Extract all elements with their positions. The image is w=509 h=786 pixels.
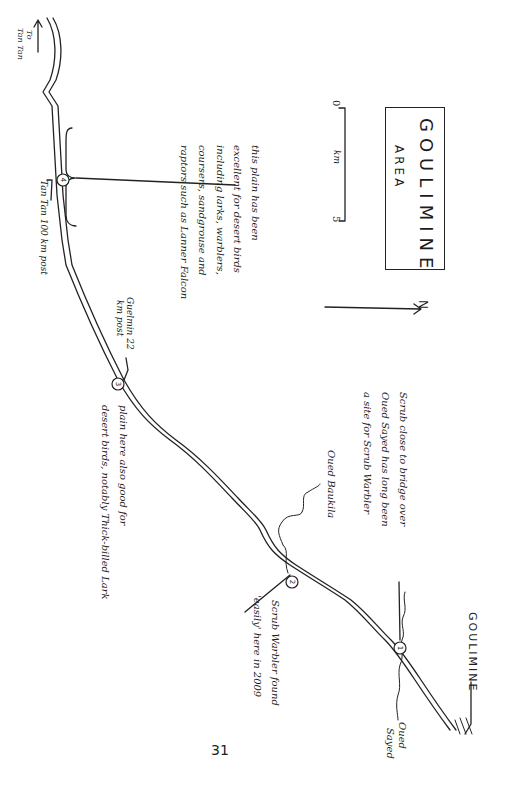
site1-note-line2: Oued Sayed has long been: [380, 392, 390, 527]
page-number: 31: [211, 742, 229, 758]
oued-boukila-label: Oued Baukila: [326, 450, 336, 518]
tan-tan-label: Tan Tan: [16, 28, 24, 60]
scale-bar: [339, 108, 345, 221]
site1-note-line3: a site for Scrub Warbler: [362, 392, 372, 514]
site4-note-line2: excellent for desert birds: [232, 145, 242, 273]
guelmin-22km-post-marker: [124, 358, 128, 380]
site-marker-1-label: 1: [396, 646, 404, 650]
tan-tan-100km-post-label: Tan Tan 100 km post: [39, 180, 48, 275]
site4-leader-line: [76, 178, 235, 185]
guelmin-22km-post-line1: Guelmin 22: [125, 297, 134, 350]
scale-end: 5: [331, 216, 341, 222]
goulimine-town-label: GOULIMINE: [467, 612, 478, 693]
site3-note-line1: plain here also good for: [118, 405, 128, 526]
site4-note-line3: including larks, warblers,: [215, 145, 225, 275]
site4-note-line5: raptors such as Lanner Falcon: [179, 145, 189, 299]
site4-note-line4: coursers, sandgrouse and: [197, 145, 207, 276]
oued-boukila-river: [279, 484, 320, 573]
site-marker-4-label: 4: [59, 178, 67, 183]
site4-note-line1: this plain has been: [250, 145, 260, 241]
goulimine-area-map: 1 2 3 4 GOULIMINE AREA 0 km 5 N To Tan T…: [0, 0, 509, 786]
site-marker-3-label: 3: [114, 382, 122, 386]
goulimine-town-hatch: [455, 718, 472, 734]
map-subtitle: AREA: [393, 145, 405, 189]
oued-sayed-label-line2: Sayed: [385, 728, 395, 759]
site2-note-line1: Scrub Warbler found: [270, 600, 280, 706]
guelmin-22km-post-line2: km post: [115, 300, 124, 336]
site3-note-line2: desert birds, notably Thick-billed Lark: [100, 405, 110, 600]
oued-sayed-label-line1: Oued: [397, 722, 407, 749]
site-marker-2-label: 2: [288, 580, 296, 584]
site1-note-line1: Scrub close to bridge over: [398, 392, 408, 526]
to-label: To: [25, 30, 33, 40]
scale-start: 0: [331, 100, 341, 106]
scale-unit: km: [332, 150, 341, 164]
to-tan-tan-arrow-icon: [34, 20, 42, 52]
site1-leader-line: [399, 582, 400, 640]
map-title: GOULIMINE: [417, 118, 435, 274]
north-label: N: [417, 300, 429, 309]
north-arrow-icon: [325, 304, 421, 314]
site2-note-line2: 'easily' here in 2009: [252, 595, 262, 697]
